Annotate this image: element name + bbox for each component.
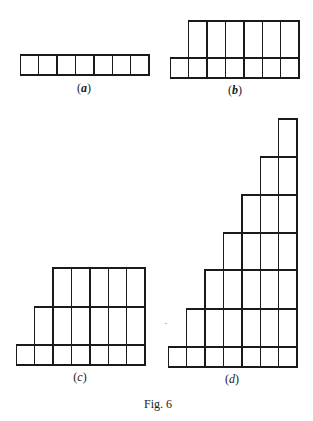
row-3 (242, 195, 297, 233)
scan-speck (165, 323, 167, 324)
panel-label-d: (d) (225, 372, 239, 387)
paren-close: ) (238, 83, 242, 97)
figure-caption: Fig. 6 (144, 397, 172, 412)
row-3 (16, 345, 145, 365)
row-1 (20, 55, 149, 75)
paren-close: ) (83, 370, 87, 384)
paren-close: ) (87, 81, 91, 95)
panel-c-grid (16, 268, 145, 365)
panel-b-grid (170, 21, 299, 78)
panel-label-a: (a) (77, 81, 91, 96)
panel-a-grid (20, 55, 149, 75)
row-2 (170, 58, 299, 78)
row-5 (205, 270, 297, 309)
panel-d-grid (168, 119, 297, 367)
panel-label-c: (c) (73, 370, 86, 385)
paren-close: ) (235, 372, 239, 386)
row-1 (53, 268, 145, 307)
panel-label-b: (b) (228, 83, 242, 98)
staircase-grids (0, 0, 313, 421)
row-7 (168, 347, 297, 367)
row-1 (279, 119, 297, 157)
